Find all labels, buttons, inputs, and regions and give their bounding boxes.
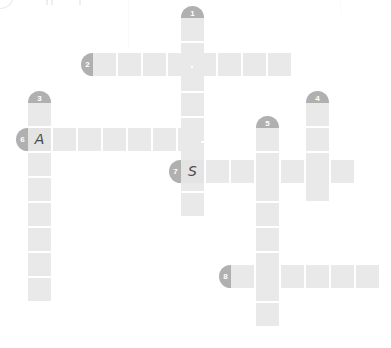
clue-number-marker-2[interactable]: 2 bbox=[81, 53, 93, 76]
crossword-cell-empty[interactable] bbox=[78, 128, 101, 151]
clue-number-marker-1[interactable]: 1 bbox=[181, 6, 204, 18]
crossword-cell-empty[interactable] bbox=[181, 93, 204, 116]
crossword-cell-filled[interactable]: S bbox=[181, 160, 204, 183]
crossword-cell-empty[interactable] bbox=[103, 128, 126, 151]
crossword-cell-empty[interactable] bbox=[28, 203, 51, 226]
crossword-cell-empty[interactable] bbox=[231, 160, 254, 183]
crossword-puzzle: 12A3456S78 bbox=[0, 0, 391, 348]
clue-number-marker-8[interactable]: 8 bbox=[219, 265, 231, 288]
crossword-cell-empty[interactable] bbox=[231, 265, 254, 288]
crossword-cell-empty[interactable] bbox=[281, 265, 304, 288]
crossword-cell-empty[interactable] bbox=[306, 160, 329, 183]
crossword-cell-empty[interactable] bbox=[118, 53, 141, 76]
crossword-cell-empty[interactable] bbox=[206, 160, 229, 183]
crossword-cell-filled[interactable]: A bbox=[28, 128, 51, 151]
crossword-cell-empty[interactable] bbox=[268, 53, 291, 76]
cell-letter: S bbox=[181, 160, 204, 183]
scan-artifact-tick bbox=[79, 0, 81, 5]
crossword-cell-empty[interactable] bbox=[53, 128, 76, 151]
crossword-cell-empty[interactable] bbox=[256, 265, 279, 288]
crossword-cell-empty[interactable] bbox=[256, 128, 279, 151]
crossword-cell-empty[interactable] bbox=[28, 153, 51, 176]
crossword-cell-empty[interactable] bbox=[256, 160, 279, 183]
crossword-cell-empty[interactable] bbox=[243, 53, 266, 76]
crossword-cell-empty[interactable] bbox=[153, 128, 176, 151]
crossword-cell-empty[interactable] bbox=[281, 160, 304, 183]
crossword-cell-empty[interactable] bbox=[181, 193, 204, 216]
crossword-cell-empty[interactable] bbox=[168, 53, 191, 76]
clue-number-marker-6[interactable]: 6 bbox=[16, 128, 28, 151]
crossword-cell-empty[interactable] bbox=[28, 178, 51, 201]
crossword-cell-empty[interactable] bbox=[28, 278, 51, 301]
crossword-cell-empty[interactable] bbox=[256, 228, 279, 251]
clue-number-marker-7[interactable]: 7 bbox=[169, 160, 181, 183]
crossword-cell-empty[interactable] bbox=[181, 18, 204, 41]
scan-artifact-faintline bbox=[340, 0, 341, 14]
crossword-cell-empty[interactable] bbox=[193, 53, 216, 76]
cell-letter: A bbox=[28, 128, 51, 151]
scan-artifact-faintline bbox=[128, 0, 129, 48]
crossword-cell-empty[interactable] bbox=[331, 265, 354, 288]
crossword-cell-empty[interactable] bbox=[28, 228, 51, 251]
clue-number-marker-5[interactable]: 5 bbox=[256, 116, 279, 128]
scan-artifact-arc bbox=[0, 0, 14, 9]
crossword-cell-empty[interactable] bbox=[256, 203, 279, 226]
crossword-cell-empty[interactable] bbox=[256, 303, 279, 326]
crossword-cell-empty[interactable] bbox=[28, 253, 51, 276]
crossword-cell-empty[interactable] bbox=[356, 265, 379, 288]
scan-artifact-tick bbox=[51, 0, 53, 5]
clue-number-marker-4[interactable]: 4 bbox=[306, 91, 329, 103]
crossword-cell-empty[interactable] bbox=[331, 160, 354, 183]
clue-number-marker-3[interactable]: 3 bbox=[28, 91, 51, 103]
crossword-cell-empty[interactable] bbox=[306, 265, 329, 288]
crossword-cell-empty[interactable] bbox=[218, 53, 241, 76]
crossword-cell-empty[interactable] bbox=[306, 103, 329, 126]
crossword-cell-empty[interactable] bbox=[28, 103, 51, 126]
scan-artifact-tick bbox=[46, 0, 48, 5]
crossword-cell-empty[interactable] bbox=[143, 53, 166, 76]
crossword-cell-empty[interactable] bbox=[178, 128, 201, 151]
crossword-cell-empty[interactable] bbox=[93, 53, 116, 76]
crossword-cell-empty[interactable] bbox=[306, 128, 329, 151]
crossword-cell-empty[interactable] bbox=[128, 128, 151, 151]
